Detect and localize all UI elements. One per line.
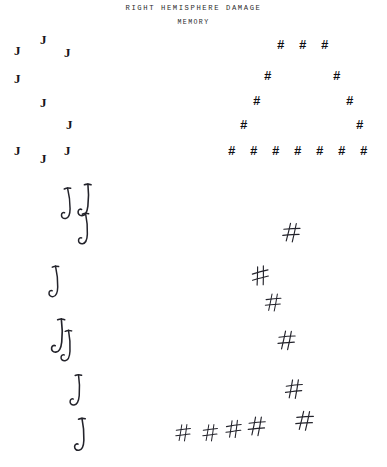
- region-response-left: [20, 175, 140, 465]
- region-response-right: [150, 200, 387, 465]
- region-stimulus-left: [0, 28, 110, 173]
- region-stimulus-right: [215, 28, 387, 173]
- figure-canvas: RIGHT HEMISPHERE DAMAGE MEMORY JJJJJJJJJ…: [0, 0, 387, 467]
